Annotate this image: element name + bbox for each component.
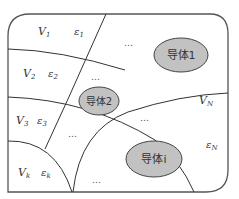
ellipsis-2: … bbox=[91, 72, 100, 82]
svg-text:VN: VN bbox=[199, 94, 214, 108]
conductor-i-label: 导体i bbox=[141, 152, 166, 166]
ellipsis-1: … bbox=[124, 38, 133, 48]
svg-text:εN: εN bbox=[206, 139, 218, 152]
region-k-labels: Vk εk bbox=[18, 166, 51, 180]
ellipsis-4: … bbox=[68, 129, 77, 139]
region-1-labels: V1 ε1 bbox=[38, 25, 84, 39]
region-2-labels: V2 ε2 bbox=[23, 67, 58, 81]
svg-text:εk: εk bbox=[41, 167, 51, 180]
svg-text:Vk: Vk bbox=[18, 166, 30, 180]
conductor-2: 导体2 bbox=[79, 87, 119, 115]
ellipsis-5: … bbox=[92, 175, 101, 185]
conductor-1: 导体1 bbox=[154, 38, 208, 72]
svg-text:ε1: ε1 bbox=[74, 26, 84, 39]
region-3-labels: V3 ε3 bbox=[16, 114, 47, 128]
svg-text:V1: V1 bbox=[38, 25, 50, 39]
svg-text:V3: V3 bbox=[16, 114, 29, 128]
region-partition-diagram: 导体1 导体2 导体i V1 ε1 V2 ε2 V3 ε3 Vk εk VN ε… bbox=[0, 0, 239, 199]
ellipsis-3: … bbox=[140, 113, 149, 123]
conductor-2-label: 导体2 bbox=[86, 96, 112, 107]
svg-text:V2: V2 bbox=[23, 67, 36, 81]
conductor-i: 导体i bbox=[126, 141, 182, 177]
conductor-1-label: 导体1 bbox=[167, 48, 196, 62]
svg-text:ε3: ε3 bbox=[37, 115, 47, 128]
region-n-labels: VN εN bbox=[199, 94, 218, 152]
slant-line-middle bbox=[45, 99, 68, 149]
svg-text:ε2: ε2 bbox=[48, 68, 58, 81]
